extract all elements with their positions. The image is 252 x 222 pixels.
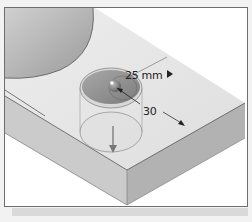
distance-dimension-value[interactable]: 30 (143, 106, 156, 117)
3d-viewport[interactable]: 25 mm 30 (4, 7, 248, 207)
frame-shadow (12, 208, 248, 216)
model-canvas[interactable] (5, 8, 248, 207)
diameter-dimension-value[interactable]: 25 mm (125, 70, 162, 81)
play-arrow-icon[interactable] (167, 70, 173, 78)
center-point-marker (110, 81, 114, 85)
